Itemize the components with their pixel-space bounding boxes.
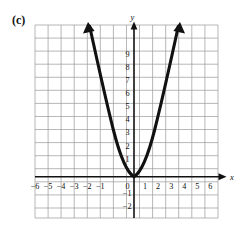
x-tick-label: −4: [57, 182, 66, 191]
y-tick-label: 4: [125, 115, 129, 124]
y-tick-label: 6: [125, 89, 129, 98]
x-axis-label: x: [229, 172, 234, 182]
coordinate-plane-svg: x y −6 −5 −4 −3 −2 −1 0 1 2 3 4 5 6 9 8 …: [0, 0, 242, 229]
x-tick-label: 4: [182, 182, 186, 191]
x-tick-label: 1: [143, 182, 147, 191]
x-tick-label: −2: [83, 182, 92, 191]
y-tick-label: 1: [125, 155, 129, 164]
x-tick-label: 3: [169, 182, 173, 191]
x-tick-label: −1: [96, 182, 105, 191]
y-tick-label: 9: [125, 50, 129, 59]
y-tick-label: −2: [123, 202, 132, 211]
x-tick-label: 6: [208, 182, 212, 191]
y-tick-label: 8: [125, 63, 129, 72]
x-tick-label: 5: [195, 182, 199, 191]
y-tick-label: 2: [125, 142, 129, 151]
x-tick-label: −6: [31, 182, 40, 191]
x-tick-label: −3: [70, 182, 79, 191]
y-axis-label: y: [130, 12, 135, 22]
graph-figure: x y −6 −5 −4 −3 −2 −1 0 1 2 3 4 5 6 9 8 …: [0, 0, 242, 229]
y-tick-label: 5: [125, 102, 129, 111]
x-tick-label: −5: [44, 182, 53, 191]
y-tick-label: 3: [125, 128, 129, 137]
y-tick-label: 7: [125, 76, 129, 85]
x-axis-arrowhead: [219, 173, 227, 180]
y-tick-label: −1: [123, 189, 132, 198]
x-tick-label: 2: [156, 182, 160, 191]
